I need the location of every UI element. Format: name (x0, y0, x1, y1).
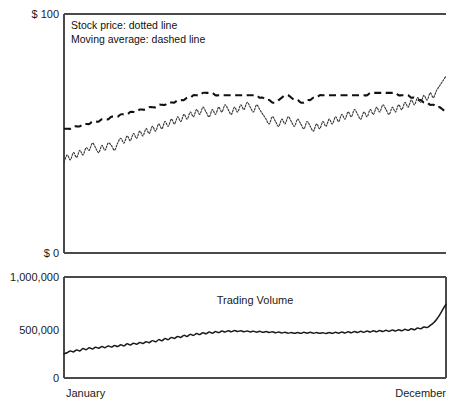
series-stock-price (64, 76, 446, 162)
price-panel-frame (64, 14, 446, 253)
legend-item-moving-average: Moving average: dashed line (71, 33, 205, 45)
volume-axis-top-label: 1,000,000 (10, 271, 59, 283)
volume-panel-title: Trading Volume (217, 294, 294, 306)
price-legend: Stock price: dotted line Moving average:… (71, 19, 205, 45)
chart-svg: $ 100 $ 0 1,000,000 500,000 0 January De… (0, 0, 460, 408)
price-axis-bottom-label: $ 0 (44, 247, 59, 259)
series-moving-average (64, 93, 446, 129)
x-axis-end-label: December (395, 387, 446, 399)
price-axis-top-label: $ 100 (31, 8, 59, 20)
legend-item-stock-price: Stock price: dotted line (71, 19, 177, 31)
volume-axis-mid-label: 500,000 (19, 324, 59, 336)
x-axis-start-label: January (66, 387, 106, 399)
volume-axis-bottom-label: 0 (53, 372, 59, 384)
series-trading-volume (64, 304, 446, 353)
stock-chart-figure: $ 100 $ 0 1,000,000 500,000 0 January De… (0, 0, 460, 408)
volume-panel-frame (64, 277, 446, 378)
